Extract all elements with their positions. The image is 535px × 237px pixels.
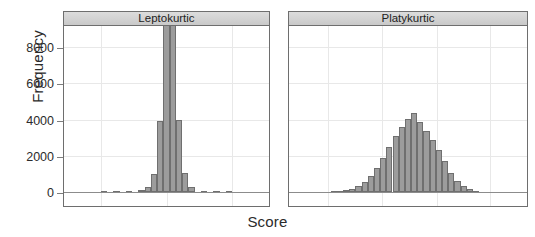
- bar-series: [289, 26, 527, 206]
- y-tick-label: 0: [47, 184, 54, 202]
- panel-title: Leptokurtic: [138, 12, 194, 25]
- panel-strip: Leptokurtic: [63, 11, 270, 26]
- plot-area: [288, 26, 528, 207]
- histogram-figure: Frequency 8000 6000 4000 2000 0 Leptokur…: [0, 0, 535, 237]
- y-tick-label: 8000: [26, 39, 54, 57]
- y-tick-label: 2000: [26, 148, 54, 166]
- zero-baseline: [289, 192, 527, 193]
- zero-baseline: [64, 192, 269, 193]
- panel-strip: Platykurtic: [288, 11, 528, 26]
- y-tick-label: 6000: [26, 75, 54, 93]
- panel-platykurtic: Platykurtic: [288, 11, 528, 207]
- plot-area: [63, 26, 270, 207]
- y-tick-label: 4000: [26, 112, 54, 130]
- y-axis: Frequency 8000 6000 4000 2000 0: [0, 0, 63, 237]
- panel-leptokurtic: Leptokurtic: [63, 11, 270, 207]
- panel-title: Platykurtic: [381, 12, 434, 25]
- x-axis-title: Score: [0, 213, 535, 230]
- bar-series: [64, 26, 269, 206]
